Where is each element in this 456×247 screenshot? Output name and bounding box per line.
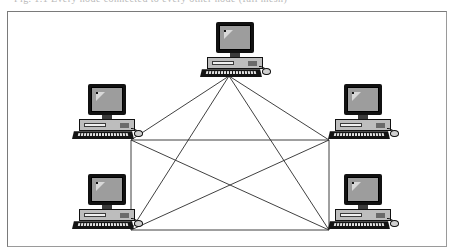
case-badge [120,123,129,128]
desktop-computer-icon [327,174,401,232]
desktop-computer-icon [71,174,145,232]
monitor-screen [347,87,379,112]
network-node-top[interactable] [199,22,273,80]
drive-slot [340,213,362,217]
monitor-screen [219,25,251,50]
network-node-right-upper[interactable] [327,84,401,142]
network-link-top-to-left-upper [131,76,229,140]
keyboard-icon [72,221,134,229]
monitor-bezel [344,174,382,205]
monitor-bezel [88,174,126,205]
mouse-icon [262,68,271,75]
desktop-computer-icon [71,84,145,142]
network-node-left-lower[interactable] [71,174,145,232]
case-badge [248,61,257,66]
keyboard-icon [328,131,390,139]
network-link-top-to-left-lower [131,76,229,230]
keyboard-keys [334,133,384,136]
monitor-bezel [88,84,126,115]
case-badge [376,123,385,128]
drive-slot [84,123,106,127]
monitor-screen [347,177,379,202]
desktop-computer-icon [199,22,273,80]
desktop-computer-icon [327,84,401,142]
drive-slot [212,61,234,65]
monitor-screen [91,177,123,202]
keyboard-icon [72,131,134,139]
screen-dot [96,92,98,94]
links-group [131,76,329,230]
keyboard-keys [334,223,384,226]
mouse-icon [390,130,399,137]
computer-case [79,209,135,221]
screen-dot [224,30,226,32]
computer-case [335,209,391,221]
keyboard-icon [200,69,262,77]
mouse-icon [134,130,143,137]
drive-slot [84,213,106,217]
network-diagram-figure [7,11,447,247]
computer-case [335,119,391,131]
network-link-top-to-right-upper [229,76,329,140]
screen-dot [352,92,354,94]
monitor-bezel [216,22,254,53]
monitor-bezel [344,84,382,115]
mouse-icon [390,220,399,227]
mouse-icon [134,220,143,227]
keyboard-keys [78,133,128,136]
case-badge [376,213,385,218]
drive-slot [340,123,362,127]
screen-dot [352,182,354,184]
screen-dot [96,182,98,184]
network-node-right-lower[interactable] [327,174,401,232]
keyboard-keys [78,223,128,226]
case-badge [120,213,129,218]
computer-case [79,119,135,131]
keyboard-keys [206,71,256,74]
keyboard-icon [328,221,390,229]
monitor-screen [91,87,123,112]
figure-caption-strip: Fig. 1.1 Every node connected to every o… [0,0,456,8]
figure-caption-text: Fig. 1.1 Every node connected to every o… [14,0,287,4]
network-node-left-upper[interactable] [71,84,145,142]
computer-case [207,57,263,69]
